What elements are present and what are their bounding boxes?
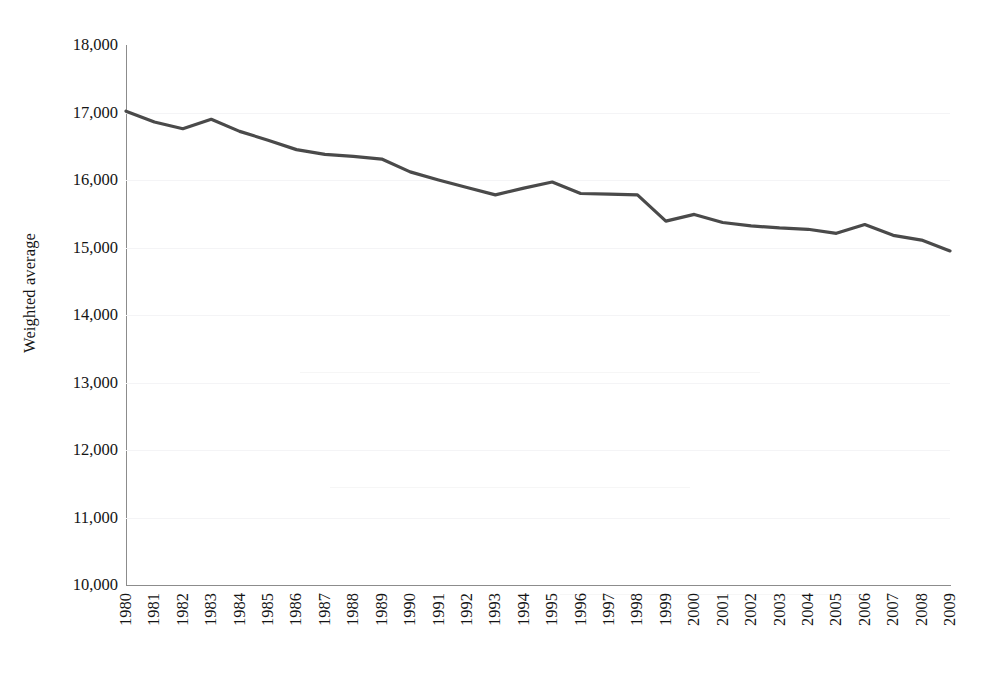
line-chart: Weighted average 18,00017,00016,00015,00…: [0, 0, 998, 676]
x-tick-label-text: 2000: [686, 593, 703, 626]
x-tick-label-text: 1994: [516, 593, 533, 626]
x-tick-label-text: 1989: [373, 593, 390, 626]
x-tick-label-text: 2004: [800, 593, 817, 626]
x-tick-label-text: 1995: [544, 593, 561, 626]
x-tick-label-text: 1992: [459, 593, 476, 626]
x-axis-tick-labels: 1980198119821983198419851986198719881989…: [126, 585, 950, 676]
y-tick-label: 17,000: [40, 104, 118, 121]
x-tick-label-text: 1991: [430, 593, 447, 626]
y-tick-label: 10,000: [40, 577, 118, 594]
scan-artifact: [330, 487, 690, 488]
x-tick-label-text: 2006: [857, 593, 874, 626]
x-tick-label-text: 1997: [601, 593, 618, 626]
x-tick-label-text: 1986: [288, 593, 305, 626]
scan-artifact: [560, 594, 860, 595]
x-tick-label-text: 1993: [487, 593, 504, 626]
y-tick-label: 15,000: [40, 239, 118, 256]
x-tick-label-text: 1999: [658, 593, 675, 626]
y-tick-label: 16,000: [40, 172, 118, 189]
x-tick-label-text: 1985: [260, 593, 277, 626]
x-tick-label-text: 2003: [771, 593, 788, 626]
x-tick-label-text: 1980: [118, 593, 135, 626]
x-tick-label-text: 2008: [913, 593, 930, 626]
x-tick-label-text: 1981: [146, 593, 163, 626]
series-line-weighted-average: [126, 45, 950, 585]
y-tick-label: 12,000: [40, 442, 118, 459]
x-tick-label-text: 2001: [714, 593, 731, 626]
y-axis-title: Weighted average: [18, 0, 42, 585]
series-polyline: [126, 111, 950, 251]
x-tick-label-text: 2005: [828, 593, 845, 626]
plot-area: [126, 45, 950, 585]
x-tick-label-text: 1988: [345, 593, 362, 626]
y-tick-label: 18,000: [40, 37, 118, 54]
x-tick-label-text: 1990: [402, 593, 419, 626]
y-axis-tick-labels: 18,00017,00016,00015,00014,00013,00012,0…: [40, 0, 118, 676]
x-tick-label-text: 2009: [942, 593, 959, 626]
y-tick-label: 13,000: [40, 374, 118, 391]
y-tick-label: 11,000: [40, 509, 118, 526]
x-tick-label-text: 1996: [572, 593, 589, 626]
x-tick-label-text: 1998: [629, 593, 646, 626]
x-tick-label-text: 2002: [743, 593, 760, 626]
y-tick-label: 14,000: [40, 307, 118, 324]
x-tick-label-text: 1987: [317, 593, 334, 626]
x-tick-label-text: 1982: [175, 593, 192, 626]
x-tick-label-text: 2007: [885, 593, 902, 626]
scan-artifact: [300, 372, 760, 373]
x-tick-label-text: 1983: [203, 593, 220, 626]
y-axis-title-text: Weighted average: [20, 233, 40, 353]
x-tick-label-text: 1984: [231, 593, 248, 626]
